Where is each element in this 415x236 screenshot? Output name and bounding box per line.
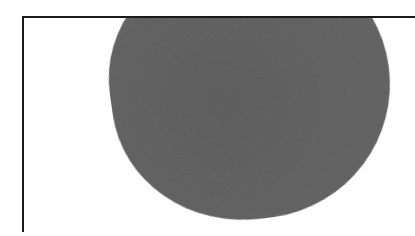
frame-top-border <box>22 16 415 18</box>
grey-circular-blob <box>93 17 408 236</box>
frame-left-border <box>22 16 24 232</box>
figure-area <box>0 17 415 236</box>
